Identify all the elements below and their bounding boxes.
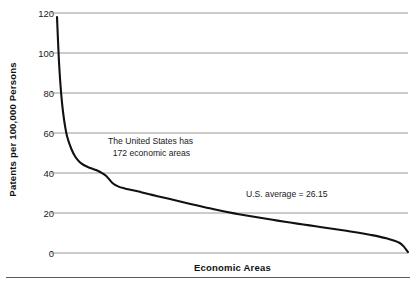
plot-area [0,0,416,287]
x-axis-title: Economic Areas [57,262,408,273]
annotation-us-economic-areas: The United States has 172 economic areas [108,136,193,159]
annotation-us-average: U.S. average = 26.15 [246,189,327,201]
data-series-line [57,17,408,252]
patents-per-capita-chart: Patents per 100,000 Persons 020406080100… [0,0,416,287]
bottom-divider-rule [6,277,410,278]
gridline-group [51,13,408,253]
